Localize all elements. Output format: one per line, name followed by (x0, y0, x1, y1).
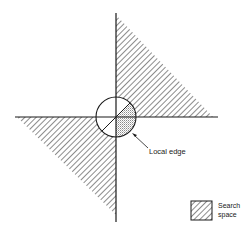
search-space-diagram: Local edge Search space (0, 0, 245, 233)
lower-left-search-region (17, 117, 116, 215)
legend-hatch-swatch (191, 201, 212, 220)
legend: Search space (191, 201, 240, 220)
legend-label-line1: Search (218, 202, 240, 209)
local-edge-arrow (134, 135, 148, 148)
arrowhead-icon (132, 133, 137, 137)
upper-right-search-region (116, 15, 213, 117)
local-edge-label: Local edge (149, 147, 186, 156)
legend-label-line2: space (218, 211, 237, 219)
